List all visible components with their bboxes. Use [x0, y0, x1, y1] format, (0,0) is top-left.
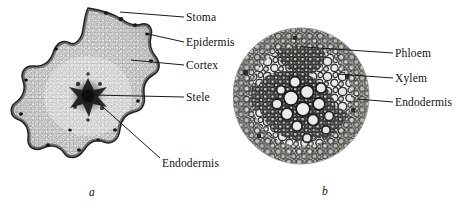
- label-xylem: Xylem: [395, 73, 427, 85]
- panel-letter-b: b: [322, 185, 328, 197]
- panel-a: Stoma Epidermis Cortex Stele Endodermis …: [0, 0, 230, 208]
- label-epidermis: Epidermis: [186, 37, 235, 49]
- figure-root: Stoma Epidermis Cortex Stele Endodermis …: [0, 0, 461, 208]
- label-endodermis-b: Endodermis: [395, 97, 452, 109]
- label-endodermis-a: Endodermis: [162, 158, 219, 170]
- label-phloem: Phloem: [395, 48, 431, 60]
- label-cortex: Cortex: [186, 60, 218, 72]
- micrograph-stele-cross-section: [233, 12, 373, 184]
- label-stele: Stele: [186, 92, 210, 104]
- panel-letter-a: a: [89, 186, 95, 198]
- label-stoma: Stoma: [186, 12, 216, 24]
- micrograph-stem-cross-section: [10, 4, 165, 184]
- panel-b: Phloem Xylem Endodermis b: [230, 0, 461, 208]
